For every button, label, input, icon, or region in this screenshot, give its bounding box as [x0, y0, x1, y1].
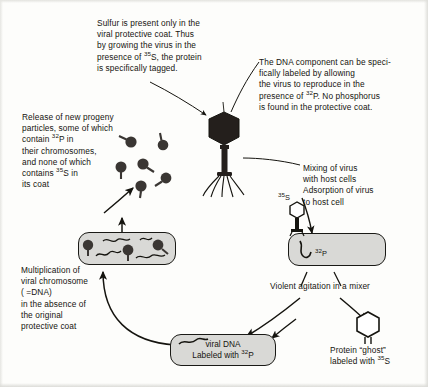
diagram-canvas: Sulfur is present only in theviral prote… — [0, 0, 428, 387]
protein-ghost-icon — [357, 312, 379, 344]
protein-ghost-layer — [0, 0, 428, 387]
